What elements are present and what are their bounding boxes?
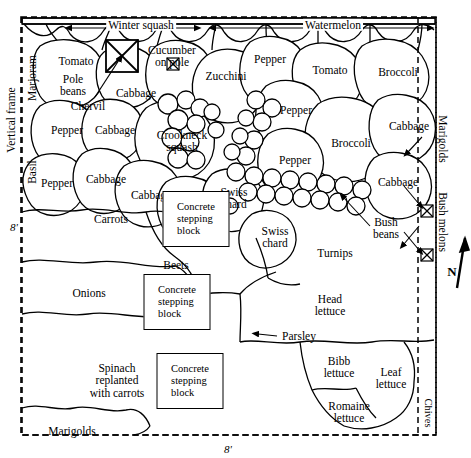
stepping-block-2-label: Concrete stepping block	[158, 284, 196, 320]
garden-plan-diagram: Vertical frame Marjoram Basil 8' 8' Mari…	[0, 0, 471, 458]
trellis-frame-top	[22, 18, 435, 24]
stepping-block-2: Concrete stepping block	[144, 274, 211, 330]
north-arrow	[452, 238, 469, 288]
cucumber-small-marker	[167, 58, 179, 70]
stepping-block-1-label: Concrete stepping block	[177, 201, 215, 237]
parsley-pointer	[258, 334, 277, 336]
stepping-block-3-label: Concrete stepping block	[171, 363, 209, 399]
stepping-block-3: Concrete stepping block	[157, 353, 224, 409]
stepping-block-1: Concrete stepping block	[163, 191, 230, 247]
garden-plan-drawing	[0, 0, 471, 458]
